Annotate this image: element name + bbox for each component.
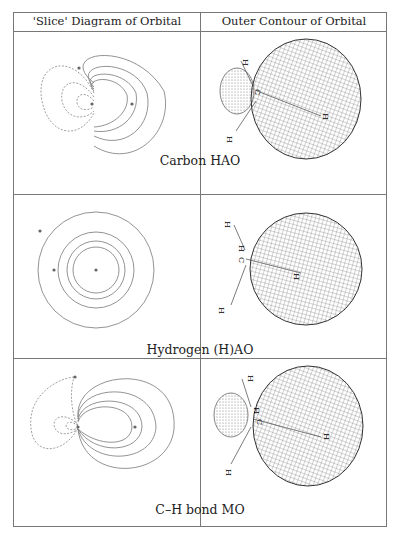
hydrogen-nucleus: [94, 268, 97, 271]
sphere-surface: [250, 213, 362, 325]
atom-label-h: H: [217, 307, 226, 314]
header-outer-contour: Outer Contour of Orbital: [201, 14, 387, 28]
atom-label-h: H: [292, 273, 301, 280]
back-lobe: [220, 68, 254, 114]
atom-label-h: H: [252, 407, 261, 414]
atom-label-c: C: [255, 419, 264, 425]
hydrogen-nucleus: [133, 425, 136, 428]
atom-label-h: H: [224, 469, 233, 476]
caption-carbon-hao: Carbon HAO: [14, 153, 386, 168]
carbon-nucleus: [52, 268, 55, 271]
hydrogen-ao-slice-diagram: [14, 195, 200, 335]
front-lobe: [253, 366, 363, 486]
atom-label-h: H: [225, 136, 234, 143]
carbon-hao-outer-contour: H C H H: [201, 31, 387, 171]
front-lobe: [251, 39, 361, 159]
hydrogen-nucleus: [77, 66, 80, 69]
atom-label-c: C: [253, 89, 262, 95]
atom-label-h: H: [223, 221, 232, 228]
atom-label-h: H: [321, 113, 330, 120]
hydrogen-ao-outer-contour: H H C H H: [201, 195, 387, 335]
atom-label-h: H: [246, 375, 255, 382]
atom-label-h: H: [322, 433, 331, 440]
hydrogen-nucleus: [73, 375, 76, 378]
carbon-nucleus: [90, 102, 93, 105]
atom-label-h: H: [241, 59, 250, 66]
ch-bond-mo-outer-contour: H H C H H: [201, 359, 387, 499]
ch-bond-mo-slice-diagram: [14, 359, 200, 499]
hydrogen-nucleus: [38, 229, 41, 232]
hydrogen-nucleus: [130, 102, 133, 105]
atom-label-h: H: [237, 245, 246, 252]
back-lobe: [214, 393, 248, 437]
caption-hydrogen-ao: Hydrogen (H)AO: [14, 342, 386, 357]
carbon-hao-slice-diagram: [14, 31, 200, 194]
atom-label-c: C: [237, 257, 246, 263]
header-slice-diagram: 'Slice' Diagram of Orbital: [14, 14, 200, 28]
caption-ch-bond-mo: C–H bond MO: [14, 502, 386, 517]
orbital-table: 'Slice' Diagram of Orbital Outer Contour…: [13, 12, 387, 527]
carbon-nucleus: [76, 425, 79, 428]
